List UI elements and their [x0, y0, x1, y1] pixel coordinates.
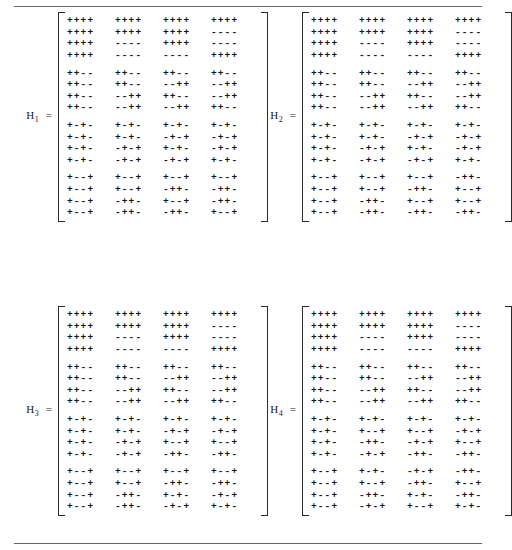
matrix-cell: -++-	[407, 449, 455, 460]
matrix-cell: -+-+	[163, 426, 211, 437]
matrix-cell: +-+-	[359, 132, 407, 143]
matrix-row: +-+-+-+--+-+-+-+	[311, 131, 503, 143]
matrix-cell: ++++	[67, 15, 115, 26]
matrix-cell: +-+-	[359, 414, 407, 425]
matrix-cell: +--+	[311, 184, 359, 195]
matrix-cell: +--+	[115, 478, 163, 489]
matrix-cell: +--+	[67, 184, 115, 195]
matrix-cell: -+-+	[211, 143, 259, 154]
matrix-cell: -+-+	[211, 132, 259, 143]
matrix-row: ++----++++----++	[67, 91, 259, 103]
matrix-cell: +--+	[211, 466, 259, 477]
matrix-row: ++----++--++++--	[67, 102, 259, 114]
matrix-cell: +-+-	[311, 426, 359, 437]
matrix-row: ++----++++----++	[311, 385, 503, 397]
matrix-cell: -+-+	[407, 437, 455, 448]
matrix-row: +--+-++-+-+--++-	[311, 489, 503, 501]
matrix-cell: ++--	[163, 91, 211, 102]
matrix-cell: -++-	[455, 172, 503, 183]
matrix-row: +--+-++--+-++-+-	[67, 501, 259, 513]
matrix-cell: +--+	[311, 466, 359, 477]
matrix-cell: +-+-	[455, 501, 503, 512]
matrix-cell: ++--	[67, 102, 115, 113]
matrix-cell: ----	[115, 332, 163, 343]
matrix-cell: --++	[211, 385, 259, 396]
matrix-row: ++++--------++++	[67, 344, 259, 356]
matrix-cell: +-+-	[67, 143, 115, 154]
matrix-cell: ++++	[359, 309, 407, 320]
matrix-row: +-+-+-+-+-+-+-+-	[311, 414, 503, 426]
matrix-row: ++++++++++++----	[311, 321, 503, 333]
matrix-cell: ++++	[67, 309, 115, 320]
matrix-row: +-+-+--++--+-+-+	[311, 425, 503, 437]
matrix-cell: -+-+	[359, 155, 407, 166]
matrix-cell: ++++	[163, 321, 211, 332]
matrix-cell: ++--	[455, 362, 503, 373]
matrix-cell: ++++	[311, 38, 359, 49]
matrix-cell: --++	[455, 385, 503, 396]
matrix-cell: ++--	[67, 362, 115, 373]
matrix-cell: +-+-	[163, 143, 211, 154]
matrix-cell: ++++	[67, 50, 115, 61]
matrix-cell: +--+	[115, 466, 163, 477]
matrix-cell: +-+-	[67, 426, 115, 437]
matrix-cell: ++++	[67, 27, 115, 38]
matrix-cell: ++--	[311, 102, 359, 113]
matrix-row: +-+--++--+-++--+	[311, 437, 503, 449]
matrix-cell: +--+	[359, 184, 407, 195]
matrix-cell: ++++	[455, 309, 503, 320]
matrix-cell: ++--	[359, 362, 407, 373]
matrix-cell: -++-	[211, 449, 259, 460]
matrix-row: ++++----++++----	[67, 332, 259, 344]
matrix-cell: -++-	[115, 196, 163, 207]
matrix-cell: +-+-	[67, 155, 115, 166]
matrix-cell: -+-+	[211, 490, 259, 501]
matrix-cell: +-+-	[211, 414, 259, 425]
matrix-label-equals: =	[39, 109, 52, 121]
matrix-cell: ++++	[407, 332, 455, 343]
matrix-cell: +-+-	[311, 414, 359, 425]
matrix-row: ++++++++++++++++	[67, 15, 259, 27]
matrix-cell: ++--	[311, 396, 359, 407]
matrix-cell: +--+	[67, 501, 115, 512]
matrix-cell: --++	[455, 79, 503, 90]
matrix-cell: ++++	[67, 38, 115, 49]
matrix-row: ++++----++++----	[67, 38, 259, 50]
matrix-cell: -++-	[211, 196, 259, 207]
matrix-row: ++++++++++++----	[311, 27, 503, 39]
matrix-block-h1: H1= ++++++++++++++++++++++++++++----++++…	[14, 12, 268, 222]
matrix-cell: +-+-	[311, 120, 359, 131]
matrix-cell: +--+	[311, 490, 359, 501]
matrix-cell: ++--	[359, 373, 407, 384]
matrix-cell: +-+-	[455, 414, 503, 425]
matrix-row: +-+--+-+-+-++-+-	[311, 155, 503, 167]
matrix-row: ++--++--++--++--	[67, 67, 259, 79]
page-rule-top	[14, 6, 482, 7]
matrix-row: +-+-+-+-+-+-+-+-	[311, 120, 503, 132]
matrix-cell: ++++	[407, 15, 455, 26]
matrix-h1: ++++++++++++++++++++++++++++----++++----…	[58, 12, 268, 222]
matrix-cell: +--+	[163, 196, 211, 207]
matrix-cell: --++	[407, 102, 455, 113]
matrix-cell: -+-+	[407, 132, 455, 143]
matrix-cell: ++--	[455, 396, 503, 407]
matrix-cell: +--+	[67, 490, 115, 501]
bracket-left-icon	[302, 306, 309, 516]
matrix-label-h2: H2=	[258, 110, 296, 124]
matrix-cell: --++	[163, 102, 211, 113]
matrix-cell: ++++	[115, 321, 163, 332]
matrix-row: +--++--+-++--++-	[67, 184, 259, 196]
matrix-cell: ++--	[407, 362, 455, 373]
matrix-row: ++++--------++++	[311, 344, 503, 356]
matrix-cell: ++++	[211, 50, 259, 61]
matrix-row: ++----++--++++--	[311, 102, 503, 114]
matrix-cell: ++--	[67, 91, 115, 102]
matrix-cell: ++--	[211, 68, 259, 79]
matrix-cell: ----	[455, 38, 503, 49]
matrix-cell: ----	[455, 27, 503, 38]
matrix-cell: ++++	[163, 15, 211, 26]
matrix-cell: -++-	[211, 184, 259, 195]
matrix-cell: -++-	[455, 490, 503, 501]
matrix-cell: ++--	[115, 362, 163, 373]
matrix-cell: +--+	[67, 478, 115, 489]
